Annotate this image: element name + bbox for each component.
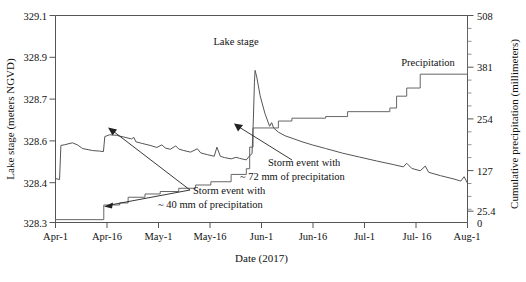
arrowhead-icon — [104, 203, 113, 209]
x-ticklabel: May-16 — [193, 231, 226, 242]
y-ticklabel: 328.7 — [23, 94, 47, 105]
x-ticklabel: Jul- 16 — [403, 231, 432, 242]
x-ticklabel: Jun-16 — [299, 231, 328, 242]
storm-40mm-line2: ~ 40 mm of precipitation — [158, 199, 264, 210]
caption-strip — [0, 272, 526, 282]
y-axis-title-right: Cumulative precipitation (millimeters) — [508, 39, 521, 209]
storm-72mm-line1: Storm event with — [268, 157, 341, 168]
y-axis-ticklabels-right: 508 381 254 127 25.4 0 — [477, 11, 496, 229]
x-ticklabel: Jun-1 — [250, 231, 273, 242]
y2-ticklabel: 508 — [477, 11, 493, 22]
x-ticklabel: Apr-1 — [43, 231, 68, 242]
y2-ticklabel: 254 — [477, 114, 494, 125]
y-ticklabel: 328.3 — [23, 218, 47, 229]
y2-ticklabel: 25.4 — [477, 206, 496, 217]
storm-event-72mm-annotation: Storm event with ~ 72 mm of precipitatio… — [234, 124, 346, 183]
x-ticklabel: Apr-16 — [92, 231, 122, 242]
arrowhead-icon — [234, 124, 243, 132]
figure-container: 329.1 328.9 328.7 328.6 328.4 328.3 Lake… — [0, 0, 526, 282]
storm-72mm-line2: ~ 72 mm of precipitation — [240, 171, 346, 182]
y-ticklabel: 328.6 — [23, 136, 47, 147]
y2-ticklabel: 127 — [477, 166, 493, 177]
x-axis-ticks — [56, 223, 468, 229]
x-ticklabel: Aug-1 — [454, 231, 481, 242]
storm-40mm-line1: Storm event with — [193, 185, 266, 196]
precipitation-label: Precipitation — [401, 57, 455, 68]
x-axis-ticklabels: Apr-1 Apr-16 May-1 May-16 Jun-1 Jun-16 J… — [43, 231, 480, 242]
x-ticklabel: May-1 — [145, 231, 173, 242]
y-axis-ticks-left — [50, 16, 56, 223]
y2-ticklabel: 381 — [477, 62, 493, 73]
y-ticklabel: 329.1 — [23, 11, 47, 22]
y-ticklabel: 328.9 — [23, 52, 47, 63]
x-ticklabel: Jul-1 — [354, 231, 375, 242]
x-axis-title: Date (2017) — [235, 252, 288, 265]
y-axis-ticks-right — [468, 16, 474, 212]
y2-ticklabel: 0 — [477, 218, 482, 229]
arrowhead-icon — [108, 128, 117, 136]
y-axis-title-left: Lake stage (meters NGVD) — [4, 58, 17, 180]
lake-stage-precipitation-chart: 329.1 328.9 328.7 328.6 328.4 328.3 Lake… — [0, 0, 526, 282]
y-ticklabel: 328.4 — [23, 178, 47, 189]
lake-stage-label: Lake stage — [213, 36, 259, 47]
y-axis-ticklabels-left: 329.1 328.9 328.7 328.6 328.4 328.3 — [23, 11, 47, 229]
